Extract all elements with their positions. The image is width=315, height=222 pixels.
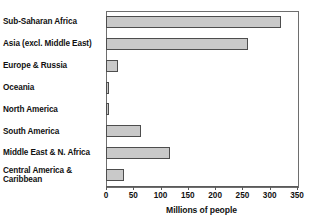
category-label: Central America &Caribbean (3, 166, 104, 185)
bar-row (106, 125, 297, 137)
category-label-line: Sub-Saharan Africa (3, 17, 104, 26)
x-axis-tick-label: 50 (129, 191, 138, 200)
x-axis-tick-label: 250 (236, 191, 250, 200)
x-axis-tick (215, 186, 216, 190)
category-label: Sub-Saharan Africa (3, 17, 104, 26)
bar (106, 60, 118, 72)
x-axis-tick (188, 186, 189, 190)
x-axis-tick-label: 150 (181, 191, 195, 200)
category-label: Europe & Russia (3, 61, 104, 70)
x-axis-tick-label: 0 (104, 191, 109, 200)
bar-row (106, 82, 297, 94)
category-label: Middle East & N. Africa (3, 148, 104, 157)
x-axis-tick-label: 300 (263, 191, 277, 200)
bar (106, 16, 281, 28)
category-label: Asia (excl. Middle East) (3, 39, 104, 48)
bar-row (106, 16, 297, 28)
x-axis-tick (161, 186, 162, 190)
x-axis-tick (270, 186, 271, 190)
x-axis-tick (242, 186, 243, 190)
bar (106, 82, 109, 94)
plot-area (106, 11, 297, 186)
bar-row (106, 103, 297, 115)
bar (106, 103, 109, 115)
x-axis-tick (297, 186, 298, 190)
x-axis-tick (133, 186, 134, 190)
bar-row (106, 60, 297, 72)
bar (106, 147, 170, 159)
category-label-line: South America (3, 127, 104, 136)
category-label-line: Asia (excl. Middle East) (3, 39, 104, 48)
x-axis-tick (106, 186, 107, 190)
bar-row (106, 147, 297, 159)
bar (106, 169, 124, 181)
x-axis-title: Millions of people (106, 205, 297, 215)
bar-chart: Sub-Saharan AfricaAsia (excl. Middle Eas… (0, 0, 315, 222)
bar (106, 38, 248, 50)
category-label: North America (3, 105, 104, 114)
category-label-line: Middle East & N. Africa (3, 148, 104, 157)
x-axis-tick-label: 100 (154, 191, 168, 200)
category-label-line: Oceania (3, 83, 104, 92)
x-axis-tick-label: 200 (208, 191, 222, 200)
x-axis-tick-label: 350 (290, 191, 304, 200)
category-label-line: North America (3, 105, 104, 114)
category-label-line: Europe & Russia (3, 61, 104, 70)
category-label: Oceania (3, 83, 104, 92)
bar-row (106, 38, 297, 50)
bar-row (106, 169, 297, 181)
category-label: South America (3, 127, 104, 136)
clipped-title-remnant (0, 0, 315, 5)
category-label-line: Caribbean (3, 175, 104, 184)
bar (106, 125, 141, 137)
category-label-line: Central America & (3, 166, 104, 175)
category-axis: Sub-Saharan AfricaAsia (excl. Middle Eas… (0, 11, 104, 186)
